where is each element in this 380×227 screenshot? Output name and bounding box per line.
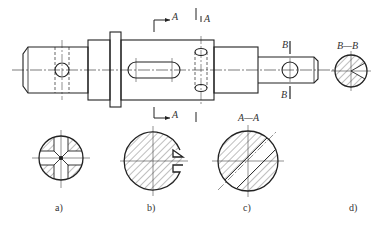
drawing-canvas [0,0,380,227]
caption-c: c) [243,203,251,213]
caption-b: b) [147,203,155,213]
section-mark-b-bottom: B [281,90,287,100]
section-mark-a-top: A [204,14,210,24]
caption-a: a) [55,203,63,213]
section-b [120,126,188,196]
section-a [32,130,90,188]
section-mark-a-bottom: A [172,110,178,120]
section-mark-a-top-left: A [172,12,178,22]
section-bb [331,51,371,91]
section-cut-a-right [196,8,212,122]
caption-d: d) [349,203,357,213]
section-title-bb: B—B [337,41,358,51]
shaft-collar [110,32,121,107]
section-mark-b-top: B [282,40,288,50]
section-c [212,125,284,197]
section-title-aa: A—A [238,113,259,123]
shaft-drawing: A A A B B A—A B—B a) b) c) d) [0,0,380,227]
